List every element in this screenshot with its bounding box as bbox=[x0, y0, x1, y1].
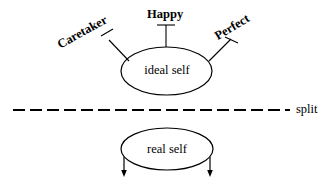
diagram-vector-layer bbox=[0, 0, 332, 185]
split-divider-label: split bbox=[296, 103, 318, 116]
attribute-label-happy: Happy bbox=[147, 8, 183, 21]
real-self-arrow-left-head bbox=[121, 170, 127, 177]
ideal-self-label: ideal self bbox=[133, 64, 201, 77]
connector-caretaker bbox=[109, 40, 129, 61]
real-self-label: real self bbox=[133, 143, 201, 156]
connector-caretaker-tick bbox=[101, 29, 113, 36]
diagram-canvas: ideal self real self Caretaker Happy Per… bbox=[0, 0, 332, 185]
real-self-arrow-right-head bbox=[207, 170, 213, 177]
